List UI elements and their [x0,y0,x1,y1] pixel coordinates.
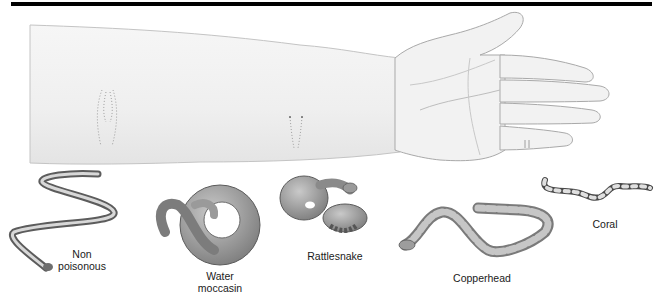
label-nonpoisonous: Non poisonous [57,248,107,272]
snake-coral [544,180,650,198]
hand [395,12,609,160]
snake-water-moccasin [161,185,260,265]
snake-rattlesnake [280,176,367,232]
label-water-moccasin: Water moccasin [190,270,250,294]
label-line: Non [57,248,107,260]
label-line: Water [190,270,250,282]
label-line: poisonous [57,260,107,272]
snake-copperhead [399,208,548,252]
label-line: Copperhead [447,272,517,284]
label-line: Rattlesnake [300,250,370,262]
label-copperhead: Copperhead [447,272,517,284]
label-line: moccasin [190,282,250,294]
label-line: Coral [585,218,625,230]
forearm [0,20,400,170]
label-rattlesnake: Rattlesnake [300,250,370,262]
label-coral: Coral [585,218,625,230]
